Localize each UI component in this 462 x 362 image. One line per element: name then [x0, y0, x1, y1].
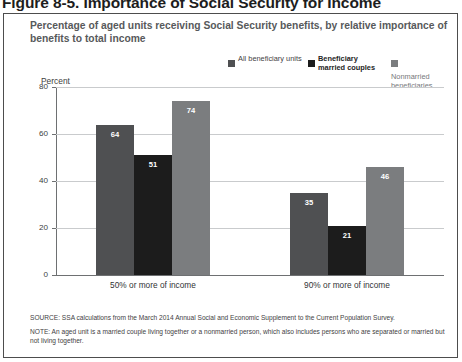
- bar-value-label: 51: [134, 160, 172, 169]
- legend-swatch-nonmarried-beneficiaries: [391, 60, 398, 67]
- bar-all-beneficiary-units-1: 64: [96, 125, 134, 275]
- y-axis-tick-label: 40: [24, 176, 48, 185]
- definition-note: NOTE: An aged unit is a married couple l…: [30, 327, 450, 345]
- chart-legend: All beneficiary units Beneficiary marrie…: [228, 54, 456, 78]
- y-axis-tick-label: 0: [24, 270, 48, 279]
- bar-value-label: 21: [328, 231, 366, 240]
- legend-item-beneficiary-married-couples: Beneficiary married couples: [308, 54, 384, 72]
- figure-heading-text: Figure 8-5. Importance of Social Securit…: [2, 0, 381, 12]
- legend-swatch-beneficiary-married-couples: [308, 60, 315, 67]
- bar-nonmarried-beneficiaries-2: 46: [366, 167, 404, 275]
- gridline: [56, 87, 444, 88]
- legend-label-all-beneficiary-units: All beneficiary units: [238, 54, 302, 63]
- chart-subtitle: Percentage of aged units receiving Socia…: [30, 19, 450, 45]
- bar-nonmarried-beneficiaries-1: 74: [172, 101, 210, 275]
- y-axis-tick: [52, 275, 56, 276]
- bar-all-beneficiary-units-2: 35: [290, 193, 328, 275]
- x-axis-label-group-1: 50% or more of income: [78, 280, 228, 290]
- y-axis-tick-label: 60: [24, 129, 48, 138]
- legend-label-beneficiary-married-couples: Beneficiary married couples: [318, 54, 384, 72]
- bar-value-label: 64: [96, 130, 134, 139]
- legend-swatch-all-beneficiary-units: [228, 60, 235, 67]
- x-axis-label-group-2: 90% or more of income: [272, 280, 422, 290]
- figure-panel: Percentage of aged units receiving Socia…: [3, 13, 458, 358]
- bar-value-label: 35: [290, 198, 328, 207]
- legend-item-all-beneficiary-units: All beneficiary units: [228, 54, 302, 72]
- source-note: SOURCE: SSA calculations from the March …: [30, 313, 450, 322]
- footnotes: SOURCE: SSA calculations from the March …: [30, 313, 450, 345]
- y-axis-tick-label: 20: [24, 223, 48, 232]
- bar-beneficiary-married-couples-1: 51: [134, 155, 172, 275]
- bar-value-label: 46: [366, 172, 404, 181]
- bar-value-label: 74: [172, 106, 210, 115]
- bar-beneficiary-married-couples-2: 21: [328, 226, 366, 275]
- figure-heading: Figure 8-5. Importance of Social Securit…: [0, 0, 462, 13]
- plot-area: Percent 020406080 645174352146 50% or mo…: [4, 76, 458, 291]
- y-axis-tick-label: 80: [24, 82, 48, 91]
- x-axis-line: [56, 275, 444, 276]
